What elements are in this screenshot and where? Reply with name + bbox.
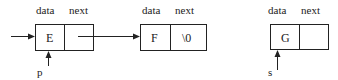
node-f-next-header: next (175, 4, 194, 16)
node-e-data-value: E (46, 31, 53, 45)
node-f-data-header: data (142, 4, 160, 16)
node-g-data-header: data (268, 4, 286, 16)
node-e: data next E (36, 4, 94, 51)
node-f-data-value: F (151, 31, 158, 45)
arrowhead-icon (28, 34, 35, 40)
node-g: data next G (268, 4, 329, 50)
node-g-next-header: next (301, 4, 320, 16)
linked-list-diagram: data next E p data next F \0 data next G (0, 0, 338, 80)
pointer-p-label: p (37, 66, 43, 78)
pointer-s: s (268, 50, 281, 78)
node-e-data-header: data (36, 4, 54, 16)
arrowhead-icon (46, 51, 52, 58)
node-e-next-header: next (69, 4, 88, 16)
node-f-next-value: \0 (182, 31, 191, 45)
node-g-data-value: G (281, 31, 290, 45)
node-f: data next F \0 (141, 4, 207, 51)
arrowhead-icon (275, 50, 281, 57)
pointer-s-label: s (268, 66, 272, 78)
head-arrow (11, 34, 35, 40)
arrowhead-icon (133, 34, 140, 40)
pointer-p: p (37, 51, 52, 78)
